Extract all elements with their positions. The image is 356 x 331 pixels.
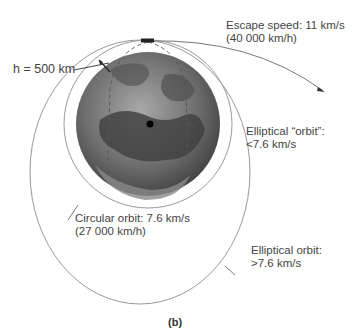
elliptical-orbit-label: Elliptical orbit: [251, 244, 322, 257]
altitude-label: h = 500 km [13, 63, 75, 76]
suborbital-label: Elliptical “orbit”: [246, 125, 325, 138]
elliptical-orbit-speed-label: >7.6 km/s [251, 257, 301, 270]
escape-speed-kmh-label: (40 000 km/h) [226, 32, 297, 45]
orbit-diagram [0, 0, 356, 331]
satellite [141, 39, 154, 43]
circular-orbit-label: Circular orbit: 7.6 km/s [75, 212, 190, 225]
circular-orbit-kmh-label: (27 000 km/h) [75, 225, 146, 238]
suborbital-speed-label: <7.6 km/s [246, 138, 296, 151]
figure-caption: (b) [168, 316, 182, 328]
escape-speed-label: Escape speed: 11 km/s [226, 19, 345, 32]
earth-center-dot [147, 121, 154, 128]
